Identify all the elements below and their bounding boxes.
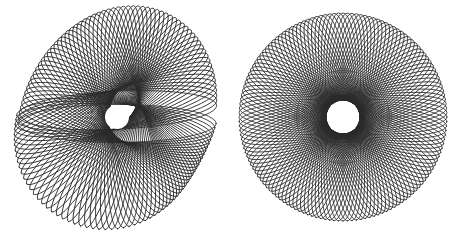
regular-rosette-drawing — [0, 0, 456, 239]
regular-rosette-figure — [0, 0, 456, 239]
center-hole — [330, 104, 356, 130]
spirograph-canvas — [0, 0, 456, 239]
